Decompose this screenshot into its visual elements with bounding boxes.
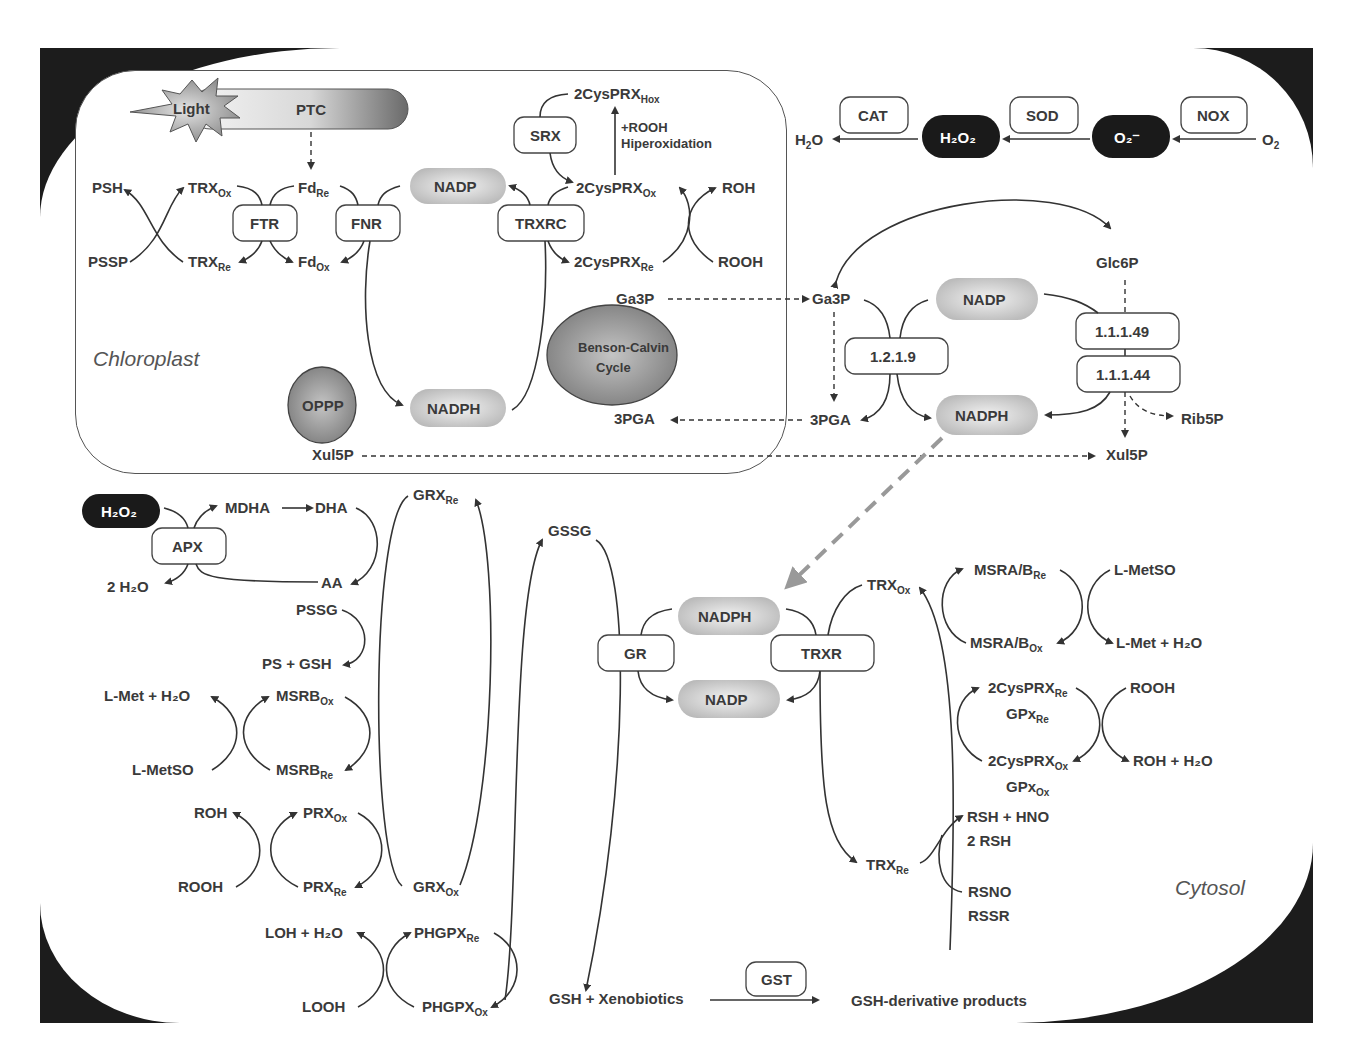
svg-text:Cycle: Cycle [596, 360, 631, 375]
svg-text:O₂⁻: O₂⁻ [1114, 129, 1140, 146]
cytosol-label: Cytosol [1175, 876, 1246, 899]
ftr-enzyme: FTR [233, 205, 297, 241]
svg-text:FNR: FNR [351, 215, 382, 232]
svg-text:CAT: CAT [858, 107, 888, 124]
roh-left: ROH [194, 804, 227, 821]
2h2o-label: 2 H₂O [107, 578, 149, 595]
prx-re-left: PRXRe [303, 878, 347, 898]
nadp-cytosol-oppp: NADP [936, 278, 1038, 320]
gpx-ox-label: GPxOx [1006, 778, 1050, 798]
nadph-transfer-arrow [790, 438, 942, 584]
fd-re-label: FdRe [298, 179, 330, 199]
gsh-xenobiotics-label: GSH + Xenobiotics [549, 990, 684, 1007]
h2o2-pill: H₂O₂ [922, 115, 1000, 158]
svg-text:TRXRC: TRXRC [515, 215, 567, 232]
nadp-chloroplast: NADP [410, 168, 506, 204]
nadph-center: NADPH [678, 597, 780, 635]
trx-re-cytosol: TRXRe [866, 856, 909, 876]
lmet-h2o-left: L-Met + H₂O [104, 687, 191, 704]
lmetso-right: L-MetSO [1114, 561, 1176, 578]
svg-text:1.2.1.9: 1.2.1.9 [870, 348, 916, 365]
rooh-left: ROOH [178, 878, 223, 895]
h2o2-pill-apx: H₂O₂ [82, 494, 160, 528]
prx-re-label: 2CysPRXRe [574, 253, 654, 273]
gsh-products-label: GSH-derivative products [851, 992, 1027, 1009]
enzyme-1-1-1-44: 1.1.1.44 [1077, 356, 1180, 392]
svg-text:NADP: NADP [434, 178, 477, 195]
ga3p-chloroplast: Ga3P [616, 290, 654, 307]
loh-h2o-label: LOH + H₂O [265, 924, 343, 941]
trx-re-label: TRXRe [188, 253, 231, 273]
prx-ox-cytosol: 2CysPRXOx [988, 752, 1068, 772]
msrb-re-label: MSRBRe [276, 761, 333, 781]
cat-enzyme: CAT [840, 97, 908, 133]
svg-text:APX: APX [172, 538, 203, 555]
svg-text:GR: GR [624, 645, 647, 662]
svg-text:Benson-Calvin: Benson-Calvin [578, 340, 669, 355]
rooh-label: ROOH [718, 253, 763, 270]
3pga-chloroplast: 3PGA [614, 410, 655, 427]
o2-label: O2 [1262, 131, 1280, 151]
prx-ox-left: PRXOx [303, 804, 348, 824]
lmet-h2o-right: L-Met + H₂O [1116, 634, 1203, 651]
light-star-icon: Light [130, 78, 240, 142]
rooh-right: ROOH [1130, 679, 1175, 696]
dha-label: DHA [315, 499, 348, 516]
xul5p-chloroplast: Xul5P [312, 446, 354, 463]
svg-text:NADPH: NADPH [955, 407, 1008, 424]
benson-calvin-cycle: Benson-Calvin Cycle [547, 305, 677, 405]
msra-ox-label: MSRA/BOx [970, 634, 1043, 654]
nadph-cytosol-oppp: NADPH [936, 395, 1038, 435]
ps-gsh-label: PS + GSH [262, 655, 332, 672]
fd-ox-label: FdOx [298, 253, 330, 273]
fnr-enzyme: FNR [336, 205, 400, 241]
hiperox-label-2: Hiperoxidation [621, 136, 712, 151]
svg-text:SRX: SRX [530, 127, 561, 144]
hiperox-label-1: +ROOH [621, 120, 668, 135]
oppp-node: OPPP [288, 367, 356, 443]
nadp-center: NADP [678, 680, 780, 718]
msra-re-label: MSRA/BRe [974, 561, 1046, 581]
grx-ox-label: GRXOx [413, 878, 459, 898]
svg-text:1.1.1.49: 1.1.1.49 [1095, 323, 1149, 340]
superoxide-pill: O₂⁻ [1092, 115, 1170, 158]
svg-text:NOX: NOX [1197, 107, 1230, 124]
gst-enzyme: GST [746, 962, 806, 996]
svg-text:H₂O₂: H₂O₂ [940, 129, 976, 146]
sod-enzyme: SOD [1010, 97, 1078, 133]
svg-text:Light: Light [173, 100, 210, 117]
srx-enzyme: SRX [514, 117, 576, 153]
psh-label: PSH [92, 179, 123, 196]
prx-hox-label: 2CysPRXHox [574, 85, 660, 105]
phgpx-re-label: PHGPXRe [414, 924, 480, 944]
2rsh-label: 2 RSH [967, 832, 1011, 849]
rssr-label: RSSR [968, 907, 1010, 924]
msrb-ox-label: MSRBOx [276, 687, 334, 707]
lmetso-left: L-MetSO [132, 761, 194, 778]
chloroplast-label: Chloroplast [93, 347, 200, 370]
gssg-label: GSSG [548, 522, 591, 539]
pssp-label: PSSP [88, 253, 128, 270]
rsno-label: RSNO [968, 883, 1012, 900]
svg-text:H₂O₂: H₂O₂ [101, 503, 137, 520]
gr-enzyme: GR [598, 635, 674, 671]
nadph-chloroplast: NADPH [410, 389, 506, 427]
svg-text:NADP: NADP [963, 291, 1006, 308]
svg-text:NADP: NADP [705, 691, 748, 708]
nox-enzyme: NOX [1181, 97, 1247, 133]
ga3p-cytosol: Ga3P [812, 290, 850, 307]
roh-h2o-right: ROH + H₂O [1133, 752, 1213, 769]
phgpx-ox-label: PHGPXOx [422, 998, 488, 1018]
enzyme-1-2-1-9: 1.2.1.9 [845, 338, 948, 374]
svg-text:1.1.1.44: 1.1.1.44 [1096, 366, 1151, 383]
prx-re-cytosol: 2CysPRXRe [988, 679, 1068, 699]
mdha-label: MDHA [225, 499, 270, 516]
roh-label: ROH [722, 179, 755, 196]
pssg-label: PSSG [296, 601, 338, 618]
svg-text:PTC: PTC [296, 101, 326, 118]
svg-text:NADPH: NADPH [698, 608, 751, 625]
trx-ox-cytosol: TRXOx [867, 576, 911, 596]
svg-text:OPPP: OPPP [302, 397, 344, 414]
trxr-enzyme: TRXR [771, 635, 874, 671]
3pga-cytosol: 3PGA [810, 411, 851, 428]
